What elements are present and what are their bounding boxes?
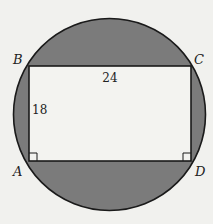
vertex-label-b: B [12, 52, 23, 67]
vertex-label-a: A [12, 164, 22, 179]
dimension-label-ab: 18 [32, 103, 47, 117]
figure-canvas: B C A D 24 18 [0, 0, 213, 224]
vertex-label-c: C [194, 52, 204, 67]
vertex-label-d: D [194, 164, 206, 179]
geometry-figure: B C A D 24 18 [0, 0, 213, 224]
dimension-label-bc: 24 [102, 71, 118, 85]
